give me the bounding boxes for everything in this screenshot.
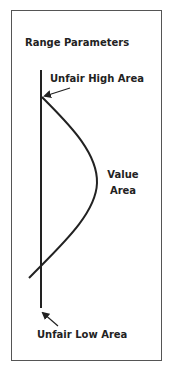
range-diagram <box>0 0 169 374</box>
value-area-label: Value Area <box>104 167 142 199</box>
value-area-curve <box>29 97 97 278</box>
value-label-line2: Area <box>104 183 142 199</box>
unfair-low-label: Unfair Low Area <box>37 330 127 340</box>
diagram-title: Range Parameters <box>25 38 129 48</box>
unfair-high-label: Unfair High Area <box>50 74 144 84</box>
unfair-high-arrow <box>45 88 70 96</box>
unfair-low-arrow <box>43 313 58 326</box>
value-label-line1: Value <box>104 167 142 183</box>
